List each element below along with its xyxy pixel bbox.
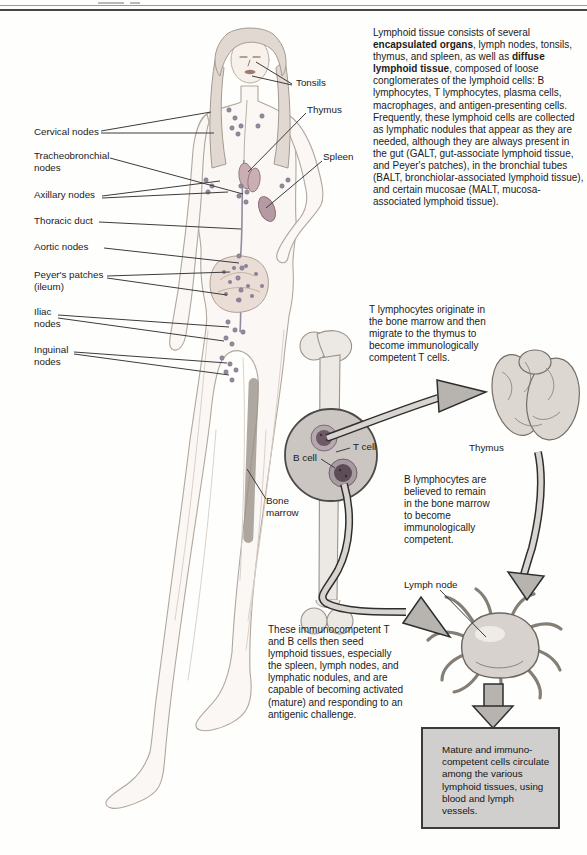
textbook-page: Lymphoid tissue consists of several enca… <box>0 0 587 855</box>
ileum-organ <box>210 256 268 312</box>
b-origin-text: B lymphocytes are believed to remain in … <box>404 474 492 547</box>
label-iliac-nodes: Iliac nodes <box>34 306 64 329</box>
label-cervical-nodes: Cervical nodes <box>34 126 104 138</box>
t-origin-text: T lymphocytes originate in the bone marr… <box>369 304 491 364</box>
label-bone-marrow: Bone marrow <box>266 495 306 518</box>
label-tracheobronchial-nodes: Tracheobronchial nodes <box>34 150 126 173</box>
label-t-cell: T cell <box>353 441 376 453</box>
arrow-thymus-to-node <box>508 452 544 600</box>
seeding-text: These immunocompetent T and B cells then… <box>268 624 404 721</box>
arrow-node-to-box <box>473 684 513 728</box>
label-lymph-node: Lymph node <box>404 579 458 591</box>
label-peyers-patches: Peyer's patches (ileum) <box>34 269 114 292</box>
label-aortic-nodes: Aortic nodes <box>34 241 104 253</box>
label-b-cell: B cell <box>293 452 317 464</box>
label-axillary-nodes: Axillary nodes <box>34 189 104 201</box>
label-spleen: Spleen <box>323 151 354 163</box>
label-thymus-body: Thymus <box>307 104 342 116</box>
circulation-text: Mature and immuno-competent cells circul… <box>442 744 549 816</box>
intro-paragraph: Lymphoid tissue consists of several enca… <box>373 27 584 208</box>
intro-bold-encapsulated-organs: encapsulated organs <box>373 39 473 50</box>
label-thymus-diagram: Thymus <box>469 442 504 454</box>
intro-text: , composed of loose conglomerates of the… <box>373 63 583 207</box>
arrow-tcell-to-thymus <box>327 380 486 438</box>
label-tonsils: Tonsils <box>296 77 326 89</box>
intro-text: Lymphoid tissue consists of several <box>373 27 530 38</box>
b-cell-drawing <box>329 459 357 487</box>
thymus-drawing <box>485 350 584 443</box>
label-inguinal-nodes: Inguinal nodes <box>34 344 76 367</box>
circulation-info-box: Mature and immuno-competent cells circul… <box>421 727 560 829</box>
label-thoracic-duct: Thoracic duct <box>34 215 104 227</box>
